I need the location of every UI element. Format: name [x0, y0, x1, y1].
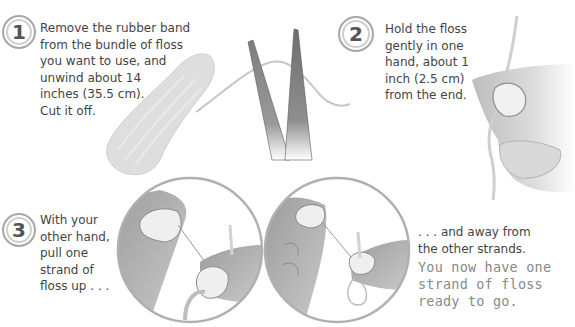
step-3-continuation-line: the other strands.	[418, 241, 531, 258]
step-3-continuation-text: . . . and away from the other strands.	[418, 224, 531, 257]
step-3-note-text: You now have one strand of floss ready t…	[418, 259, 551, 310]
step-3-continuation-line: . . . and away from	[418, 224, 531, 241]
step-3-note-line: strand of floss	[418, 276, 551, 293]
step-3-note-line: You now have one	[418, 259, 551, 276]
step-3-note-line: ready to go.	[418, 293, 551, 310]
